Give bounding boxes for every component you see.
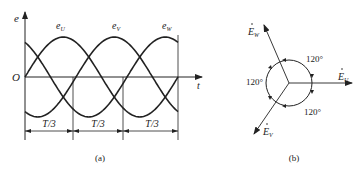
phasor-figure: 120° 120° 120° EU EW EV (b): [246, 23, 352, 163]
curve-label-v: eV: [112, 20, 121, 32]
x-axis-label: t: [197, 80, 200, 91]
svg-text:EU: EU: [337, 71, 349, 83]
svg-text:EW: EW: [247, 26, 260, 38]
caption-a: (a): [95, 153, 105, 163]
phasor-label-v: EV: [262, 123, 274, 138]
phasor-e-v: [254, 83, 289, 134]
interval-label: T/3: [91, 118, 104, 129]
angle-label: 120°: [246, 77, 264, 87]
angle-label: 120°: [306, 54, 324, 64]
interval-dimension: T/3: [25, 118, 73, 131]
phasor-label-w: EW: [247, 23, 260, 38]
interval-label: T/3: [145, 118, 158, 129]
interval-dimension: T/3: [123, 118, 178, 131]
svg-text:EV: EV: [262, 126, 274, 138]
phasor-label-u: EU: [337, 68, 349, 83]
waveform-figure: e t O eU eV eW T/3 T/3 T/3 (a): [12, 12, 202, 163]
interval-dimension: T/3: [73, 118, 123, 131]
y-axis-label: e: [14, 12, 19, 24]
origin-label: O: [12, 71, 20, 83]
caption-b: (b): [289, 153, 300, 163]
angle-label: 120°: [304, 107, 322, 117]
curve-label-u: eU: [56, 20, 65, 32]
curve-label-w: eW: [162, 20, 172, 32]
three-phase-diagram: e t O eU eV eW T/3 T/3 T/3 (a): [0, 0, 363, 176]
circle-arrow-icon: [268, 65, 272, 69]
interval-label: T/3: [42, 118, 55, 129]
